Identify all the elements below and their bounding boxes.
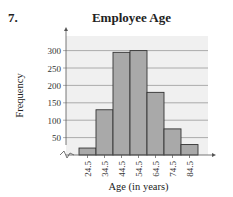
x-tick-label: 34.5	[100, 161, 110, 177]
histogram-bar	[181, 145, 198, 155]
x-tick-label: 74.5	[168, 161, 178, 177]
histogram-bar	[130, 51, 147, 155]
y-tick-label: 150	[48, 98, 62, 108]
x-axis-label: Age (in years)	[108, 181, 169, 193]
x-tick-label: 84.5	[185, 161, 195, 177]
x-tick-label: 64.5	[151, 161, 161, 177]
histogram-bar	[147, 92, 164, 155]
histogram-bar	[164, 129, 181, 155]
y-tick-label: 200	[48, 81, 62, 91]
x-tick-label: 24.5	[83, 161, 93, 177]
y-axis-label: Frequency	[14, 73, 25, 118]
y-axis-arrow-icon	[64, 27, 68, 31]
histogram-bar	[96, 110, 113, 155]
histogram-bar	[113, 52, 130, 155]
histogram-bar	[79, 148, 96, 155]
y-tick-label: 250	[48, 64, 62, 74]
histogram-chart: 5010015020025030024.534.544.554.564.574.…	[0, 0, 233, 197]
y-tick-label: 300	[48, 46, 62, 56]
x-tick-label: 44.5	[117, 161, 127, 177]
y-tick-label: 50	[52, 133, 62, 143]
x-axis-arrow-icon	[212, 153, 216, 157]
x-tick-label: 54.5	[134, 161, 144, 177]
y-tick-label: 100	[48, 116, 62, 126]
